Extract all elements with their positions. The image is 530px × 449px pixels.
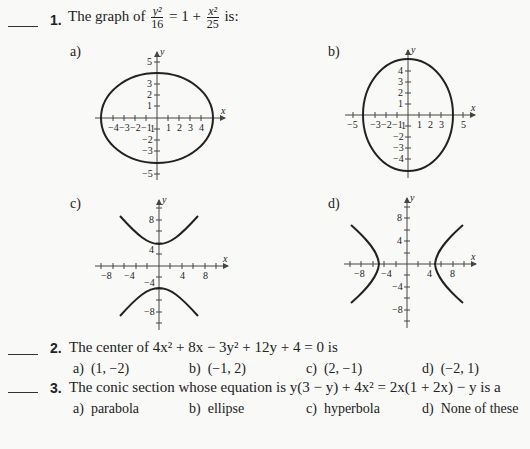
svg-text:5: 5 (461, 119, 466, 130)
svg-text:2: 2 (398, 87, 403, 98)
svg-text:−3: −3 (142, 145, 153, 156)
svg-text:x: x (470, 102, 476, 113)
q3-b-value: ellipse (208, 401, 245, 416)
svg-text:−8: −8 (392, 304, 403, 315)
svg-text:−8: −8 (354, 268, 365, 279)
svg-text:8: 8 (397, 212, 402, 223)
graph-d-horizontal-hyperbola[interactable]: −8−448 84−4−8 yx (344, 192, 476, 328)
q3-d-value: None of these (441, 401, 519, 416)
svg-text:2: 2 (428, 119, 433, 130)
svg-text:−5: −5 (142, 168, 153, 179)
svg-text:−2: −2 (142, 134, 153, 145)
svg-text:−3: −3 (119, 122, 130, 133)
svg-text:3: 3 (147, 78, 152, 89)
q2-option-a[interactable]: a) (1, −2) (73, 361, 129, 377)
q3-option-a[interactable]: a) parabola (73, 401, 139, 417)
svg-text:2: 2 (147, 89, 152, 100)
svg-text:−8: −8 (101, 270, 112, 281)
svg-text:−5: −5 (347, 119, 358, 130)
svg-text:1: 1 (398, 98, 403, 109)
svg-text:5: 5 (147, 56, 152, 67)
q3-option-d[interactable]: d) None of these (422, 401, 518, 417)
svg-text:−4: −4 (108, 122, 119, 133)
svg-text:−4: −4 (381, 268, 392, 279)
graph-b-vertical-ellipse[interactable]: −5−3−2−1 1235 4321 1−2−3−4 yx (345, 44, 476, 178)
svg-text:−4: −4 (124, 270, 135, 281)
svg-text:−2: −2 (381, 119, 392, 130)
graph-c-vertical-hyperbola[interactable]: −8−448 84−4−8 yx (95, 194, 228, 330)
question-text-3: The conic section whose equation is y(3 … (69, 379, 501, 396)
svg-text:−2: −2 (130, 122, 141, 133)
q2-option-c[interactable]: c) (2, −1) (306, 361, 362, 377)
svg-text:−3: −3 (370, 119, 381, 130)
svg-text:−2: −2 (393, 131, 404, 142)
q3-b-label: b) (189, 401, 201, 416)
svg-text:8: 8 (450, 268, 455, 279)
svg-text:3: 3 (398, 76, 403, 87)
svg-text:x: x (220, 105, 226, 116)
svg-text:1: 1 (401, 120, 406, 131)
svg-text:1: 1 (417, 119, 422, 130)
question-text-2: The center of 4x² + 8x − 3y² + 12y + 4 =… (69, 339, 338, 356)
q2-option-b[interactable]: b) (−1, 2) (189, 361, 246, 377)
q3-c-label: c) (306, 401, 317, 416)
svg-text:3: 3 (188, 122, 193, 133)
svg-text:4: 4 (149, 244, 154, 255)
q3-a-label: a) (73, 401, 84, 416)
svg-text:−8: −8 (144, 306, 155, 317)
svg-text:y: y (410, 44, 416, 55)
q2-d-label: d) (422, 361, 434, 376)
svg-text:y: y (409, 192, 415, 203)
svg-text:8: 8 (203, 270, 208, 281)
svg-text:4: 4 (397, 235, 402, 246)
q3-option-c[interactable]: c) hyperbola (306, 401, 380, 417)
answer-blank-2[interactable] (8, 354, 38, 355)
svg-text:x: x (222, 253, 228, 264)
q2-d-value: (−2, 1) (441, 361, 479, 376)
svg-text:4: 4 (199, 122, 204, 133)
svg-text:−3: −3 (393, 142, 404, 153)
q2-b-value: (−1, 2) (208, 361, 246, 376)
q3-option-b[interactable]: b) ellipse (189, 401, 244, 417)
q2-b-label: b) (189, 361, 201, 376)
q3-c-value: hyperbola (324, 401, 380, 416)
svg-text:8: 8 (149, 214, 154, 225)
q2-option-d[interactable]: d) (−2, 1) (422, 361, 479, 377)
svg-text:3: 3 (439, 119, 444, 130)
svg-text:1: 1 (147, 100, 152, 111)
graph-a-horizontal-ellipse[interactable]: −4−3−2−1 1234 5321 1−2−3−5 yx (95, 46, 226, 180)
svg-text:−4: −4 (393, 153, 404, 164)
svg-text:y: y (161, 194, 167, 205)
q2-a-value: (1, −2) (91, 361, 129, 376)
svg-text:−4: −4 (144, 277, 155, 288)
q2-a-label: a) (73, 361, 84, 376)
question-number-2: 2. (50, 340, 62, 356)
svg-text:1: 1 (150, 123, 155, 134)
q3-d-label: d) (422, 401, 434, 416)
svg-text:4: 4 (180, 270, 185, 281)
svg-text:x: x (470, 251, 476, 262)
svg-text:4: 4 (398, 65, 403, 76)
svg-text:1: 1 (166, 122, 171, 133)
svg-text:y: y (159, 46, 165, 57)
q2-c-value: (2, −1) (324, 361, 362, 376)
svg-text:4: 4 (427, 268, 432, 279)
q2-c-label: c) (306, 361, 317, 376)
question-number-3: 3. (50, 380, 62, 396)
svg-text:−4: −4 (392, 281, 403, 292)
answer-blank-3[interactable] (8, 392, 38, 393)
svg-text:2: 2 (177, 122, 182, 133)
q3-a-value: parabola (91, 401, 139, 416)
